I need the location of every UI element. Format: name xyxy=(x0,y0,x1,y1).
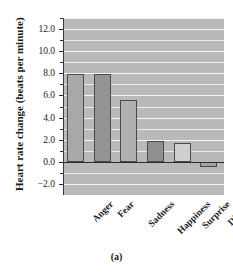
gridline xyxy=(64,107,224,108)
x-tick-label-fear: Fear xyxy=(116,199,137,220)
y-tick-label: 0.0 xyxy=(43,157,55,167)
gridline xyxy=(64,184,224,185)
gridline xyxy=(64,18,224,19)
bar-happiness xyxy=(147,141,164,162)
y-tick-label: 8.0 xyxy=(43,68,55,78)
figure-caption: (a) xyxy=(0,251,233,262)
gridline xyxy=(64,95,224,96)
gridline xyxy=(64,118,224,119)
y-tick-label: −2.0 xyxy=(38,179,55,189)
gridline xyxy=(64,173,224,174)
x-axis-labels: AngerFearSadnessHappinessSurpriseDisgust xyxy=(0,197,233,245)
gridline xyxy=(64,151,224,152)
zero-axis-line xyxy=(64,162,224,163)
y-tick-label: 2.0 xyxy=(43,135,55,145)
gridline xyxy=(64,51,224,52)
bar-surprise xyxy=(174,143,191,162)
gridline xyxy=(64,29,224,30)
gridline xyxy=(64,40,224,41)
plot-inner xyxy=(64,18,224,195)
y-axis: 12.010.08.06.04.02.00.0−2.0 xyxy=(0,18,63,195)
y-tick-label: 12.0 xyxy=(38,24,55,34)
x-tick-label-sadness: Sadness xyxy=(146,199,176,229)
gridline xyxy=(64,129,224,130)
gridline xyxy=(64,84,224,85)
bar-sadness xyxy=(120,100,137,162)
y-tick-label: 10.0 xyxy=(38,46,55,56)
x-tick-label-anger: Anger xyxy=(91,199,116,224)
gridline xyxy=(64,62,224,63)
y-tick-label: 4.0 xyxy=(43,113,55,123)
bar-fear xyxy=(94,74,111,161)
y-tick-label: 6.0 xyxy=(43,90,55,100)
bar-anger xyxy=(67,74,84,161)
gridline xyxy=(64,140,224,141)
gridline xyxy=(64,73,224,74)
plot-area xyxy=(63,18,224,195)
figure-panel: Heart rate change (beats per minute) 12.… xyxy=(0,0,233,276)
